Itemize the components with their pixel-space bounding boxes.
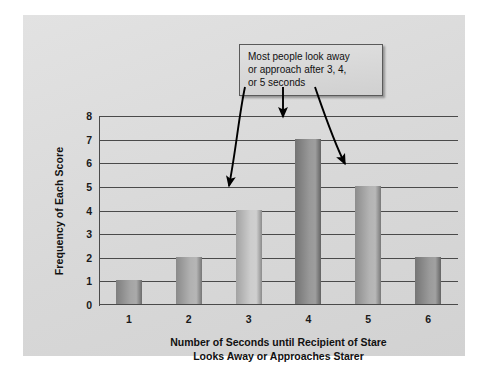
y-axis-tick-label: 5 — [86, 181, 92, 193]
gridline — [99, 211, 458, 212]
x-axis-title: Number of Seconds until Recipient of Sta… — [99, 335, 458, 363]
bar-5 — [355, 186, 381, 304]
x-axis-tick-label: 1 — [126, 313, 132, 325]
gridline — [99, 187, 458, 188]
y-axis-tick-label: 1 — [86, 275, 92, 287]
annotation-line2: or approach after 3, 4, — [248, 63, 375, 76]
x-axis-line — [99, 304, 458, 305]
bar-4 — [295, 139, 321, 304]
x-axis-tick-label: 6 — [425, 313, 431, 325]
bar-3 — [236, 210, 262, 305]
x-axis-tick-label: 4 — [305, 313, 311, 325]
annotation-line3: or 5 seconds — [248, 76, 375, 89]
y-axis-tick-label: 8 — [86, 110, 92, 122]
slide-panel: Frequency of Each Score 012345678 123456… — [23, 15, 465, 356]
gridline — [99, 140, 458, 141]
gridline — [99, 116, 458, 117]
y-axis-title: Frequency of Each Score — [53, 147, 65, 275]
annotation-callout: Most people look away or approach after … — [239, 44, 383, 96]
bar-2 — [176, 257, 202, 304]
y-axis-tick-label: 4 — [86, 205, 92, 217]
x-axis-tick-label: 3 — [246, 313, 252, 325]
gridline — [99, 163, 458, 164]
y-axis-tick-label: 6 — [86, 157, 92, 169]
annotation-line1: Most people look away — [248, 50, 375, 63]
y-axis-tick-label: 2 — [86, 252, 92, 264]
bar-1 — [116, 280, 142, 304]
x-axis-title-line1: Number of Seconds until Recipient of Sta… — [99, 335, 458, 349]
y-axis-tick-label: 3 — [86, 228, 92, 240]
y-axis-tick-label: 0 — [86, 299, 92, 311]
gridline — [99, 258, 458, 259]
gridline — [99, 234, 458, 235]
x-axis-tick-label: 5 — [365, 313, 371, 325]
y-axis-tick-label: 7 — [86, 134, 92, 146]
x-axis-title-line2: Looks Away or Approaches Starer — [99, 349, 458, 363]
x-axis-tick-label: 2 — [186, 313, 192, 325]
gridline — [99, 281, 458, 282]
bar-6 — [415, 257, 441, 304]
chart-screenshot: Frequency of Each Score 012345678 123456… — [0, 0, 487, 374]
plot-area: 012345678 123456 — [99, 116, 458, 305]
